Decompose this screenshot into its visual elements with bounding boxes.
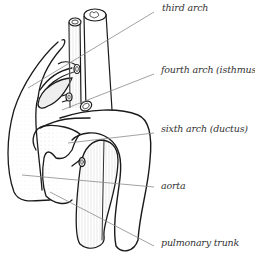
label-fourth-arch: fourth arch (isthmus) <box>161 64 255 75</box>
label-third-arch: third arch <box>162 2 208 13</box>
heart-body <box>8 40 65 201</box>
leader-third-arch <box>28 12 154 88</box>
aortic-column <box>84 9 112 110</box>
label-pulmonary-trunk: pulmonary trunk <box>161 237 239 248</box>
label-sixth-arch: sixth arch (ductus) <box>161 123 248 134</box>
pulmonary-trunk-loop <box>72 140 118 248</box>
label-aorta: aorta <box>161 180 185 191</box>
